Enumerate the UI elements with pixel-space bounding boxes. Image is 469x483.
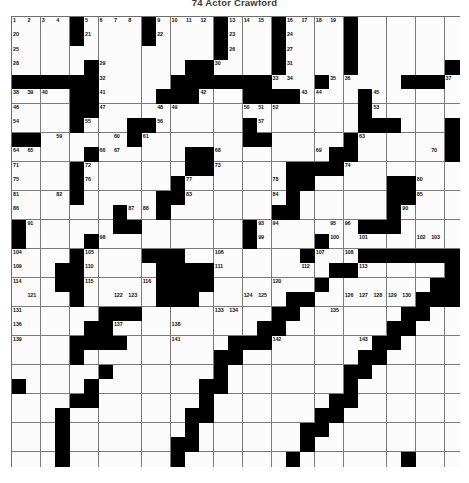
letter-cell[interactable]	[185, 365, 200, 380]
letter-cell[interactable]	[315, 365, 330, 380]
letter-cell[interactable]	[300, 336, 315, 351]
letter-cell[interactable]	[199, 234, 214, 249]
letter-cell[interactable]	[113, 104, 128, 119]
letter-cell[interactable]	[257, 278, 272, 293]
letter-cell[interactable]	[257, 350, 272, 365]
letter-cell[interactable]	[171, 118, 186, 133]
letter-cell[interactable]	[156, 46, 171, 61]
letter-cell[interactable]	[113, 350, 128, 365]
letter-cell[interactable]: 105	[84, 249, 99, 264]
letter-cell[interactable]	[401, 118, 416, 133]
letter-cell[interactable]: 104	[12, 249, 27, 264]
letter-cell[interactable]: 126	[344, 292, 359, 307]
letter-cell[interactable]	[142, 75, 157, 90]
letter-cell[interactable]	[387, 31, 402, 46]
letter-cell[interactable]	[26, 162, 41, 177]
letter-cell[interactable]	[286, 423, 301, 438]
letter-cell[interactable]: 41	[99, 89, 114, 104]
letter-cell[interactable]: 100	[329, 234, 344, 249]
letter-cell[interactable]	[142, 162, 157, 177]
letter-cell[interactable]	[329, 104, 344, 119]
letter-cell[interactable]: 94	[272, 220, 287, 235]
letter-cell[interactable]	[142, 423, 157, 438]
letter-cell[interactable]	[142, 336, 157, 351]
letter-cell[interactable]	[26, 365, 41, 380]
letter-cell[interactable]	[372, 379, 387, 394]
letter-cell[interactable]	[358, 176, 373, 191]
letter-cell[interactable]	[171, 350, 186, 365]
letter-cell[interactable]	[358, 321, 373, 336]
letter-cell[interactable]: 74	[344, 162, 359, 177]
letter-cell[interactable]	[445, 437, 460, 452]
letter-cell[interactable]	[257, 263, 272, 278]
letter-cell[interactable]	[171, 60, 186, 75]
letter-cell[interactable]	[26, 278, 41, 293]
letter-cell[interactable]	[185, 118, 200, 133]
letter-cell[interactable]	[55, 365, 70, 380]
letter-cell[interactable]: 25	[12, 46, 27, 61]
letter-cell[interactable]: 44	[315, 89, 330, 104]
letter-cell[interactable]	[257, 60, 272, 75]
letter-cell[interactable]: 18	[315, 17, 330, 32]
letter-cell[interactable]	[243, 423, 258, 438]
letter-cell[interactable]	[243, 205, 258, 220]
letter-cell[interactable]	[127, 31, 142, 46]
letter-cell[interactable]	[156, 365, 171, 380]
letter-cell[interactable]	[445, 205, 460, 220]
letter-cell[interactable]	[344, 452, 359, 467]
letter-cell[interactable]	[55, 234, 70, 249]
letter-cell[interactable]	[430, 437, 445, 452]
letter-cell[interactable]	[12, 350, 27, 365]
letter-cell[interactable]	[329, 321, 344, 336]
letter-cell[interactable]	[372, 437, 387, 452]
letter-cell[interactable]	[99, 452, 114, 467]
letter-cell[interactable]	[387, 147, 402, 162]
letter-cell[interactable]	[329, 437, 344, 452]
letter-cell[interactable]	[372, 423, 387, 438]
letter-cell[interactable]	[430, 365, 445, 380]
letter-cell[interactable]	[286, 336, 301, 351]
letter-cell[interactable]: 7	[113, 17, 128, 32]
letter-cell[interactable]	[257, 437, 272, 452]
letter-cell[interactable]	[401, 350, 416, 365]
letter-cell[interactable]	[257, 46, 272, 61]
letter-cell[interactable]	[84, 350, 99, 365]
letter-cell[interactable]	[70, 60, 85, 75]
letter-cell[interactable]	[185, 394, 200, 409]
letter-cell[interactable]	[55, 176, 70, 191]
letter-cell[interactable]: 143	[358, 336, 373, 351]
letter-cell[interactable]	[416, 394, 431, 409]
letter-cell[interactable]	[113, 249, 128, 264]
letter-cell[interactable]	[26, 263, 41, 278]
letter-cell[interactable]	[286, 249, 301, 264]
letter-cell[interactable]	[387, 365, 402, 380]
letter-cell[interactable]	[430, 162, 445, 177]
letter-cell[interactable]	[430, 191, 445, 206]
letter-cell[interactable]	[199, 307, 214, 322]
letter-cell[interactable]	[387, 278, 402, 293]
letter-cell[interactable]	[329, 46, 344, 61]
letter-cell[interactable]	[401, 379, 416, 394]
letter-cell[interactable]	[300, 191, 315, 206]
letter-cell[interactable]	[199, 423, 214, 438]
letter-cell[interactable]: 138	[171, 321, 186, 336]
letter-cell[interactable]	[300, 394, 315, 409]
letter-cell[interactable]: 9	[156, 17, 171, 32]
letter-cell[interactable]: 31	[286, 60, 301, 75]
letter-cell[interactable]	[387, 234, 402, 249]
letter-cell[interactable]	[12, 365, 27, 380]
letter-cell[interactable]	[315, 133, 330, 148]
letter-cell[interactable]	[228, 249, 243, 264]
letter-cell[interactable]	[55, 46, 70, 61]
letter-cell[interactable]: 29	[99, 60, 114, 75]
letter-cell[interactable]: 8	[127, 17, 142, 32]
letter-cell[interactable]	[171, 408, 186, 423]
letter-cell[interactable]	[199, 133, 214, 148]
letter-cell[interactable]	[156, 176, 171, 191]
letter-cell[interactable]: 82	[55, 191, 70, 206]
letter-cell[interactable]	[315, 307, 330, 322]
letter-cell[interactable]: 4	[55, 17, 70, 32]
letter-cell[interactable]: 50	[243, 104, 258, 119]
letter-cell[interactable]	[199, 437, 214, 452]
letter-cell[interactable]: 27	[286, 46, 301, 61]
